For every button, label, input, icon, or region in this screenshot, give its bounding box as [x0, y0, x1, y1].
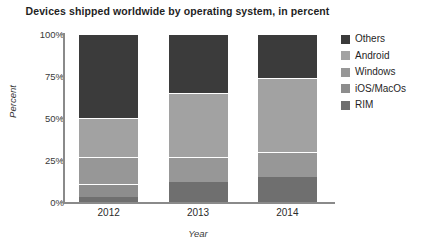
bar-segment-2012-android[interactable] [79, 118, 138, 157]
legend-item-label: RIM [355, 100, 373, 110]
x-axis-title: Year [64, 228, 332, 239]
plot-area [64, 34, 332, 202]
legend-swatch-icon [341, 35, 350, 44]
legend-item-windows[interactable]: Windows [341, 64, 435, 81]
bar-segment-2012-windows[interactable] [79, 157, 138, 184]
bar-segment-2014-android[interactable] [258, 78, 317, 152]
legend-swatch-icon [341, 101, 350, 110]
legend-swatch-icon [341, 84, 350, 93]
y-axis-ticks: 0%25%50%75%100% [0, 0, 64, 249]
bar-segment-2013-windows[interactable] [169, 157, 228, 182]
bar-segment-2014-windows[interactable] [258, 152, 317, 177]
bar-segment-2012-others[interactable] [79, 34, 138, 118]
legend-swatch-icon [341, 51, 350, 60]
legend-item-label: iOS/MacOs [355, 84, 406, 94]
y-tick-label: 0% [8, 197, 64, 208]
bar-2014[interactable] [258, 34, 317, 202]
x-axis-line [63, 202, 335, 204]
legend-item-others[interactable]: Others [341, 31, 435, 48]
chart-legend: OthersAndroidWindowsiOS/MacOsRIM [341, 31, 435, 114]
x-tick-label-2014: 2014 [252, 207, 322, 218]
bar-segment-2012-ios-macos[interactable] [79, 184, 138, 197]
y-tick-label: 100% [8, 29, 64, 40]
bar-segment-2012-rim[interactable] [79, 197, 138, 202]
bar-segment-2014-rim[interactable] [258, 177, 317, 202]
chart-container: Devices shipped worldwide by operating s… [0, 0, 435, 249]
legend-swatch-icon [341, 68, 350, 77]
y-tick-label: 50% [8, 113, 64, 124]
legend-item-rim[interactable]: RIM [341, 97, 435, 114]
bar-segment-2013-android[interactable] [169, 93, 228, 157]
bar-segment-2014-others[interactable] [258, 34, 317, 78]
x-tick-label-2013: 2013 [163, 207, 233, 218]
y-tick-label: 75% [8, 71, 64, 82]
legend-item-ios-macos[interactable]: iOS/MacOs [341, 81, 435, 98]
legend-item-label: Android [355, 51, 389, 61]
y-tick-label: 25% [8, 155, 64, 166]
legend-item-android[interactable]: Android [341, 48, 435, 65]
bar-2012[interactable] [79, 34, 138, 202]
bar-segment-2013-others[interactable] [169, 34, 228, 93]
legend-item-label: Others [355, 34, 385, 44]
bar-2013[interactable] [169, 34, 228, 202]
x-tick-label-2012: 2012 [74, 207, 144, 218]
legend-item-label: Windows [355, 67, 396, 77]
bar-segment-2013-rim[interactable] [169, 182, 228, 202]
